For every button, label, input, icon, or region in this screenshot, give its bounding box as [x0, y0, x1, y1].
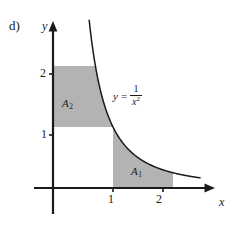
y-tick-label-1: 1 [41, 128, 47, 140]
curve-equation-label: y = 1 x2 [113, 85, 142, 108]
x-tick-label-2: 2 [156, 193, 162, 205]
equation-equals-sign: = [120, 91, 128, 102]
curve-inverse-square [89, 20, 200, 178]
region-label-a1-subscript: 1 [138, 170, 142, 179]
x-tick-label-1: 1 [108, 193, 114, 205]
equation-fraction: 1 x2 [130, 84, 142, 107]
region-label-a2-subscript: 2 [69, 102, 73, 111]
equation-denominator-exponent: 2 [137, 95, 141, 103]
equation-denominator: x2 [130, 96, 142, 107]
shaded-region-a1 [113, 127, 173, 188]
equation-numerator: 1 [132, 84, 141, 95]
x-axis-arrow-icon [205, 184, 216, 193]
region-label-a1-base: A [131, 165, 138, 177]
y-axis-arrow-icon [49, 21, 58, 32]
region-label-a2-base: A [62, 97, 69, 109]
equation-lhs: y [113, 91, 118, 102]
y-tick-label-2: 2 [40, 67, 46, 79]
region-label-a1: A1 [131, 166, 141, 177]
y-axis-label: y [42, 20, 47, 32]
figure-container: d) y x 2 1 1 2 A2 A1 y = 1 x2 [0, 0, 236, 227]
x-axis-label: x [219, 196, 224, 208]
plot-canvas [0, 0, 236, 227]
region-label-a2: A2 [62, 98, 72, 109]
